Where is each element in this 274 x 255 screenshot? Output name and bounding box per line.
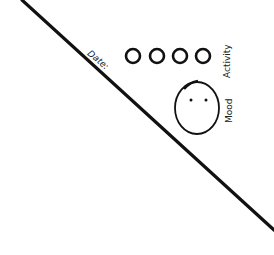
activity-circle-1[interactable] <box>126 49 140 63</box>
activity-circle-2[interactable] <box>150 49 164 63</box>
mood-label: Mood <box>224 99 234 124</box>
activity-circle-3[interactable] <box>173 49 187 63</box>
activity-circle-4[interactable] <box>196 49 210 63</box>
sketch-canvas <box>0 0 274 255</box>
activity-label: Activity <box>222 44 232 78</box>
diagonal-line <box>22 0 274 230</box>
mood-face-icon[interactable] <box>175 81 219 134</box>
